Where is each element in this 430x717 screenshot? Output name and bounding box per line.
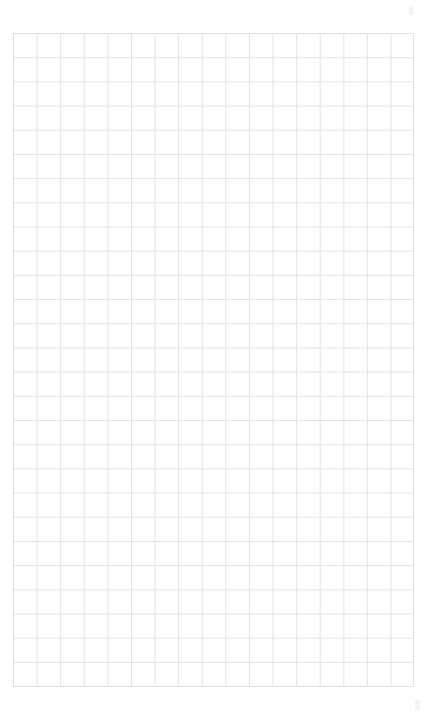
- blank-grid-canvas[interactable]: [0, 0, 430, 717]
- corner-speck-top-right: [409, 6, 413, 15]
- corner-speck-bottom-right: [415, 700, 420, 710]
- graph-paper-grid[interactable]: [13, 33, 414, 687]
